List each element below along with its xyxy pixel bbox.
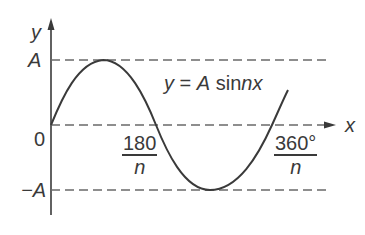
- x-tick-180-over-n: 180 n: [122, 133, 157, 177]
- x-tick-denominator: n: [290, 156, 301, 177]
- x-axis-arrow-icon: [324, 122, 336, 129]
- x-axis-label: x: [345, 115, 355, 135]
- equation-a: A: [197, 72, 210, 94]
- equation-label: y = A sinnx: [164, 73, 262, 93]
- y-tick-amplitude: A: [28, 50, 41, 70]
- equation-sin: sin: [216, 72, 242, 94]
- sine-graph: [0, 0, 365, 235]
- equation-nx: nx: [241, 72, 262, 94]
- y-axis-arrow-icon: [48, 18, 55, 30]
- x-tick-numerator: 360°: [274, 133, 317, 156]
- x-tick-numerator: 180: [122, 133, 157, 156]
- x-tick-360-over-n: 360° n: [274, 133, 317, 177]
- equation-y: y: [164, 72, 174, 94]
- origin-label: 0: [34, 129, 45, 149]
- x-tick-denominator: n: [134, 156, 145, 177]
- y-tick-negative-amplitude: −A: [21, 180, 46, 200]
- y-axis-label: y: [31, 22, 41, 42]
- equation-equals: =: [180, 72, 192, 94]
